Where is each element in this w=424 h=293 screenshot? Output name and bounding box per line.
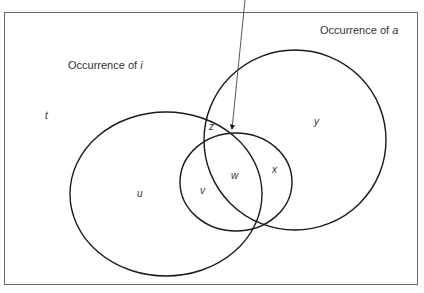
set-a-ellipse — [204, 50, 386, 230]
region-u-label: u — [137, 188, 143, 199]
set-i-label-var: i — [140, 59, 142, 71]
set-i-ellipse — [70, 112, 262, 276]
region-w-label: w — [231, 170, 238, 181]
region-t-label: t — [45, 110, 48, 121]
venn-diagram — [0, 0, 424, 293]
region-x-label: x — [272, 164, 277, 175]
set-a-label-var: a — [392, 24, 398, 36]
region-z-label: z — [209, 121, 214, 132]
set-i-label: Occurrence of i — [68, 59, 143, 71]
inner-ellipse — [180, 133, 292, 231]
region-v-label: v — [200, 185, 205, 196]
set-a-label: Occurrence of a — [320, 24, 398, 36]
set-i-label-text: Occurrence of — [68, 59, 140, 71]
set-a-label-text: Occurrence of — [320, 24, 392, 36]
region-y-label: y — [314, 116, 319, 127]
pointer-arrow — [232, 0, 245, 129]
